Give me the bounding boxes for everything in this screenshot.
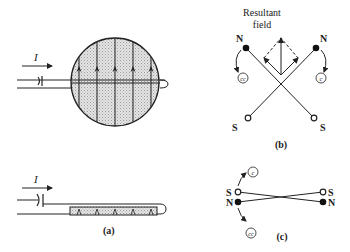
svg-text:N: N — [226, 197, 234, 208]
pole-s-right — [311, 115, 317, 121]
pole-n-left — [243, 45, 250, 52]
wire-loop-end — [160, 80, 168, 88]
needle-left — [246, 48, 314, 118]
rotation-arrow-left — [236, 50, 241, 72]
svg-text:N: N — [320, 33, 328, 44]
rotation-arrow-right — [321, 50, 326, 72]
panel-b: Resultant field N N S S cc c (b) — [232, 7, 328, 151]
svg-text:c: c — [252, 169, 255, 176]
current-label: I — [33, 51, 39, 63]
panel-a-bottom: I (a) — [17, 173, 166, 237]
rotation-arrow-down — [238, 208, 246, 221]
pole-n-right — [313, 45, 320, 52]
current-label-lower: I — [33, 173, 39, 185]
rotation-arrow-up — [238, 173, 246, 186]
svg-text:cc: cc — [248, 231, 254, 237]
panel-c: S N S N c cc (c) — [226, 167, 336, 243]
pole-s-right-c — [320, 189, 326, 195]
pole-n-left-c — [235, 199, 242, 206]
pole-n-right-c — [320, 199, 327, 206]
svg-text:c: c — [320, 75, 323, 82]
capacitor-icon — [38, 77, 40, 85]
pole-s-left — [245, 115, 251, 121]
svg-text:S: S — [320, 122, 326, 133]
needle-right — [248, 48, 316, 118]
svg-text:cc: cc — [240, 76, 246, 82]
resultant-label-2: field — [253, 19, 271, 30]
caption-c: (c) — [276, 231, 287, 243]
panel-a-top: I — [17, 30, 168, 130]
svg-text:S: S — [232, 122, 238, 133]
caption-a: (a) — [103, 225, 115, 237]
caption-b: (b) — [275, 139, 287, 151]
svg-text:N: N — [236, 33, 244, 44]
figure-canvas: I I — [0, 0, 350, 252]
svg-text:N: N — [328, 197, 336, 208]
resultant-label: Resultant — [243, 7, 281, 18]
pole-s-left-c — [235, 189, 241, 195]
